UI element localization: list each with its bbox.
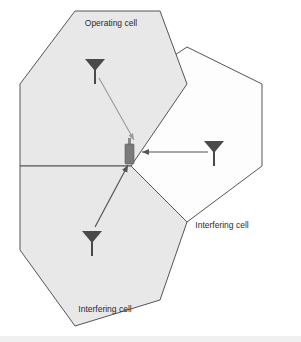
interference-diagram: Operating cell Interfering cell Interfer… [0,0,301,342]
cell-label-interfering-right: Interfering cell [195,220,248,230]
cell-label-operating: Operating cell [85,18,138,28]
cell-label-interfering-bottom: Interfering cell [78,304,131,314]
bottom-edge-band [0,336,301,342]
